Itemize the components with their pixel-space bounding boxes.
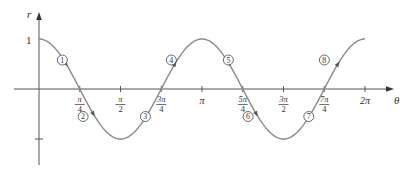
y-axis-arrow-icon <box>36 12 42 20</box>
svg-text:4: 4 <box>159 104 164 114</box>
region-label-7: 7 <box>304 112 314 122</box>
y-tick-label-one: 1 <box>26 34 32 46</box>
x-axis-arrow-icon <box>386 86 394 92</box>
polar-cartesian-graph: r θ 1 π4π23π4π5π43π27π42π 12345678 <box>0 0 419 171</box>
x-tick-label: π2 <box>116 94 126 114</box>
svg-text:5: 5 <box>226 56 230 65</box>
svg-text:8: 8 <box>322 56 326 65</box>
region-label-6: 6 <box>243 112 253 122</box>
svg-text:4: 4 <box>169 56 173 65</box>
region-labels: 12345678 <box>57 55 329 122</box>
x-tick-label: 3π2 <box>278 94 288 114</box>
region-label-8: 8 <box>319 55 329 65</box>
region-label-2: 2 <box>78 112 88 122</box>
svg-text:π: π <box>78 94 83 104</box>
svg-text:2: 2 <box>81 112 85 121</box>
svg-text:π: π <box>199 95 205 106</box>
y-axis-label: r <box>27 8 32 20</box>
region-label-3: 3 <box>140 112 150 122</box>
svg-text:π: π <box>118 94 123 104</box>
svg-text:4: 4 <box>322 104 327 114</box>
x-ticks: π4π23π4π5π43π27π42π <box>75 86 371 114</box>
axes <box>14 12 394 165</box>
x-axis-label: θ <box>394 94 400 106</box>
region-label-1: 1 <box>57 55 67 65</box>
region-label-4: 4 <box>166 55 176 65</box>
svg-text:2: 2 <box>281 104 285 114</box>
svg-text:7: 7 <box>307 112 311 121</box>
x-tick-label: 2π <box>360 95 371 106</box>
region-label-5: 5 <box>223 55 233 65</box>
svg-text:3: 3 <box>143 112 147 121</box>
svg-text:2π: 2π <box>360 95 371 106</box>
svg-text:6: 6 <box>246 112 250 121</box>
svg-text:3π: 3π <box>278 94 288 104</box>
x-tick-label: π <box>199 95 205 106</box>
svg-text:1: 1 <box>60 56 64 65</box>
svg-text:2: 2 <box>118 104 122 114</box>
